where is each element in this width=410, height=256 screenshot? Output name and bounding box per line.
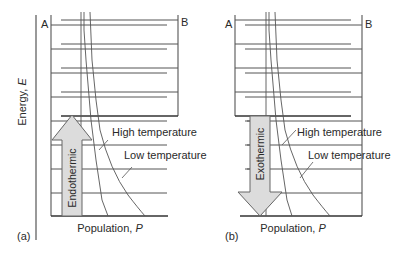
levels-b xyxy=(61,20,178,116)
endothermic-arrow: Endothermic xyxy=(52,115,92,216)
panel-label-a: (a) xyxy=(17,230,30,242)
population-curves-a xyxy=(81,12,145,216)
energy-axis-label: Energy, E xyxy=(16,78,28,126)
label-high-temp-b: High temperature xyxy=(297,126,382,138)
levels-a-b xyxy=(235,20,351,116)
arrow-label-b: Exothermic xyxy=(254,128,266,181)
label-b-right-b: B xyxy=(365,18,372,30)
panel-label-b: (b) xyxy=(225,230,238,242)
arrow-label-a: Endothermic xyxy=(66,149,78,208)
curve-low-temp-b xyxy=(275,12,330,216)
xlabel-a: Population, P xyxy=(77,222,143,234)
population-curves-b xyxy=(266,12,330,216)
curve-low-temp-a xyxy=(90,12,145,216)
panel-a: Endothermic A B High temperature Low tem… xyxy=(17,12,207,242)
leader-low-b xyxy=(300,162,313,178)
label-low-temp-a: Low temperature xyxy=(124,149,207,161)
exothermic-arrow: Exothermic xyxy=(238,116,282,216)
energy-axis: Energy, E xyxy=(16,15,36,240)
label-high-temp-a: High temperature xyxy=(112,126,197,138)
label-low-temp-b: Low temperature xyxy=(308,149,391,161)
leader-high-b xyxy=(282,130,296,145)
label-b-right: B xyxy=(181,16,188,28)
label-a-left: A xyxy=(41,18,49,30)
curve-high-temp-b xyxy=(269,12,292,216)
energy-level-diagram: Energy, E xyxy=(0,0,410,256)
xlabel-b: Population, P xyxy=(260,222,326,234)
curve-high-temp-a xyxy=(84,12,108,216)
label-a-left-b: A xyxy=(225,18,233,30)
panel-b: Exothermic A B High temperature Low temp… xyxy=(225,12,391,242)
